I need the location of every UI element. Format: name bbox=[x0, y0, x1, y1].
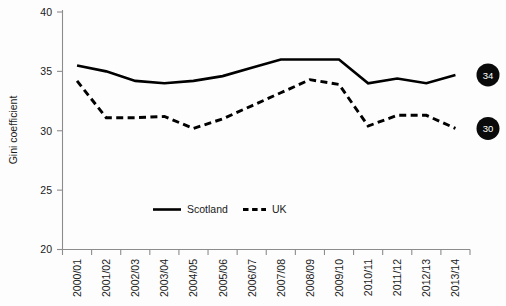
y-tick-label: 20 bbox=[40, 243, 52, 255]
x-tick-label: 2004/05 bbox=[187, 259, 199, 297]
x-tick-label: 2007/08 bbox=[275, 259, 287, 297]
value-badge-label: 34 bbox=[483, 70, 494, 81]
x-tick-label: 2009/10 bbox=[333, 259, 345, 297]
x-tick-label: 2008/09 bbox=[304, 259, 316, 297]
x-tick-label: 2013/14 bbox=[449, 259, 461, 297]
x-tick-label: 2002/03 bbox=[129, 259, 141, 297]
value-badge-label: 30 bbox=[483, 123, 494, 134]
x-tick-label: 2003/04 bbox=[158, 259, 170, 297]
chart-canvas: Gini coefficient 2025303540 2000/012001/… bbox=[0, 0, 506, 306]
x-tick-label: 2012/13 bbox=[420, 259, 432, 297]
y-tick-label: 40 bbox=[40, 6, 52, 18]
y-tick-label: 35 bbox=[40, 65, 52, 77]
y-tick-label: 30 bbox=[40, 125, 52, 137]
x-tick-label: 2001/02 bbox=[100, 259, 112, 297]
y-axis-title: Gini coefficient bbox=[7, 96, 19, 165]
x-tick-label: 2000/01 bbox=[71, 259, 83, 297]
y-tick-label: 25 bbox=[40, 184, 52, 196]
x-tick-label: 2006/07 bbox=[246, 259, 258, 297]
x-tick-label: 2010/11 bbox=[362, 259, 374, 296]
x-tick-label: 2005/06 bbox=[217, 259, 229, 297]
legend-label-scotland: Scotland bbox=[187, 203, 228, 215]
x-tick-label: 2011/12 bbox=[391, 259, 403, 296]
gini-coefficient-line-chart: Gini coefficient 2025303540 2000/012001/… bbox=[0, 0, 506, 306]
legend-label-uk: UK bbox=[272, 203, 287, 215]
